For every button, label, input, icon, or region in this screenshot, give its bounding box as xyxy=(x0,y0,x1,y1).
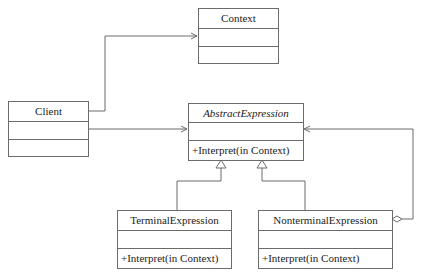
hollow-diamond-icon xyxy=(392,216,402,222)
operation-interpret: +Interpret(in Context) xyxy=(189,140,303,160)
class-name: Client xyxy=(9,102,88,121)
class-name: NonterminalExpression xyxy=(259,211,392,230)
operations-compartment xyxy=(199,46,278,63)
class-context[interactable]: Context xyxy=(198,8,279,64)
association-client-context xyxy=(88,33,197,111)
operations-compartment xyxy=(9,139,88,156)
operation-interpret: +Interpret(in Context) xyxy=(118,248,231,268)
class-terminal-expression[interactable]: TerminalExpression +Interpret(in Context… xyxy=(117,210,232,269)
attributes-compartment xyxy=(118,230,231,248)
class-nonterminal-expression[interactable]: NonterminalExpression +Interpret(in Cont… xyxy=(258,210,393,269)
aggregation-nonterminal-abstract xyxy=(304,126,413,222)
operation-interpret: +Interpret(in Context) xyxy=(259,248,392,268)
class-abstract-expression[interactable]: AbstractExpression +Interpret(in Context… xyxy=(188,103,304,161)
attributes-compartment xyxy=(259,230,392,248)
generalization-terminal xyxy=(177,160,226,210)
class-client[interactable]: Client xyxy=(8,101,89,157)
attributes-compartment xyxy=(9,121,88,139)
attributes-compartment xyxy=(189,122,303,140)
generalization-nonterminal xyxy=(257,160,305,210)
class-name: TerminalExpression xyxy=(118,211,231,230)
hollow-triangle-icon xyxy=(216,160,226,168)
class-name: Context xyxy=(199,9,278,28)
attributes-compartment xyxy=(199,28,278,46)
association-client-abstractexpression xyxy=(88,126,187,132)
class-name: AbstractExpression xyxy=(189,104,303,122)
hollow-triangle-icon xyxy=(257,160,267,168)
